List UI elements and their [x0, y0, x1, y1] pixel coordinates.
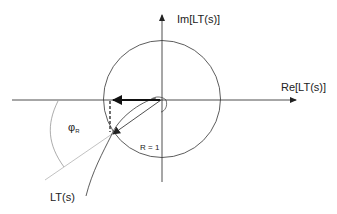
lt-curve-label: LT(s): [50, 192, 75, 203]
phi-subscript: R: [75, 128, 79, 134]
radius-label: R = 1: [140, 143, 159, 152]
nyquist-diagram: [0, 0, 337, 214]
imaginary-axis-label: Im[LT(s)]: [177, 14, 220, 25]
unit-circle-label: R = 1: [140, 141, 159, 152]
real-axis-label: Re[LT(s)]: [281, 82, 326, 93]
phase-margin-label: φR: [68, 122, 79, 134]
phase-reference-line: [45, 134, 112, 180]
phase-margin-arc: [50, 101, 64, 167]
crossing-vector-arrow: [113, 100, 161, 134]
